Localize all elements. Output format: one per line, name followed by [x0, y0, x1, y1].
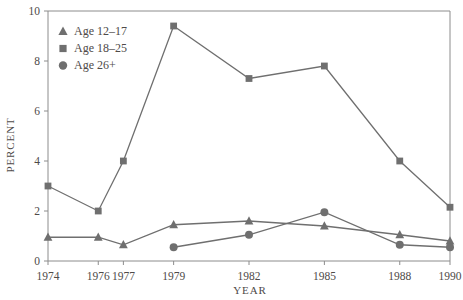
chart-legend: Age 12–17Age 18–25Age 26+ [58, 24, 127, 72]
legend-marker [59, 61, 67, 69]
data-point-marker [170, 243, 178, 251]
x-tick-label: 1982 [238, 270, 261, 282]
x-axis-label: YEAR [233, 284, 267, 296]
data-point-marker [95, 208, 102, 215]
x-axis-ticks: 19741976197719791982198519881990 [37, 261, 462, 282]
legend-marker [58, 27, 67, 36]
data-point-marker [45, 183, 52, 190]
y-tick-label: 6 [34, 105, 40, 117]
line-chart: 0246810 19741976197719791982198519881990… [0, 0, 463, 300]
data-point-marker [245, 216, 254, 224]
y-tick-label: 2 [34, 205, 40, 217]
y-axis-label: PERCENT [4, 117, 16, 172]
data-point-marker [321, 63, 328, 70]
data-point-marker [245, 231, 253, 239]
y-tick-label: 8 [34, 55, 40, 67]
data-point-marker [170, 23, 177, 30]
data-point-marker [447, 204, 454, 211]
data-point-marker [94, 232, 103, 240]
data-point-marker [396, 158, 403, 165]
legend-label: Age 26+ [74, 58, 116, 72]
x-tick-label: 1990 [439, 270, 462, 282]
x-tick-label: 1977 [112, 270, 135, 282]
data-point-marker [320, 208, 328, 216]
data-point-marker [396, 241, 404, 249]
series-line [174, 212, 450, 247]
x-tick-label: 1976 [87, 270, 110, 282]
legend-label: Age 12–17 [74, 24, 127, 38]
x-tick-label: 1974 [37, 270, 60, 282]
data-point-marker [44, 232, 53, 240]
chart-canvas: 0246810 19741976197719791982198519881990… [0, 0, 463, 300]
data-point-marker [446, 243, 454, 251]
y-tick-label: 10 [29, 5, 41, 17]
y-tick-label: 0 [34, 255, 40, 267]
data-point-marker [246, 75, 253, 82]
y-axis-ticks: 0246810 [29, 5, 49, 267]
x-tick-label: 1988 [388, 270, 411, 282]
x-tick-label: 1979 [162, 270, 185, 282]
x-tick-label: 1985 [313, 270, 336, 282]
y-tick-label: 4 [34, 155, 40, 167]
legend-marker [59, 45, 66, 52]
chart-series-group [44, 23, 455, 252]
legend-label: Age 18–25 [74, 41, 127, 55]
data-point-marker [120, 158, 127, 165]
